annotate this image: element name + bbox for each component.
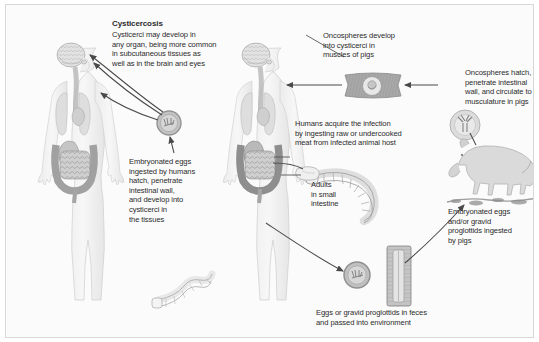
raw-meat-piece	[296, 167, 320, 180]
label-humans-acquire-infection: Humans acquire the infection by ingestin…	[295, 119, 443, 148]
label-cysticercosis-body: Cysticerci may develop in any organ, bei…	[112, 30, 262, 68]
label-eggs-gravid-proglottids-in-feces: Eggs or gravid proglottids in feces and …	[316, 308, 496, 327]
label-oncospheres-hatch: Oncospheres hatch, penetrate intestinal …	[465, 68, 534, 106]
pig-rooting-in-ground	[447, 139, 534, 206]
embryonated-egg-in-feces	[344, 262, 370, 288]
human-figure-with-organs-left	[38, 43, 124, 300]
label-adults-in-small-intestine: Adults in small intestine	[311, 180, 355, 209]
gravid-proglottid-strip	[387, 246, 411, 306]
arrow-label-to-egg	[170, 137, 174, 153]
oncosphere-with-hooklets	[450, 110, 480, 140]
title-cysticercosis: Cysticercosis	[112, 19, 163, 29]
diagram-artwork	[6, 5, 534, 338]
label-embryonated-eggs-ingested-by-humans: Embryonated eggs ingested by humans hatc…	[129, 157, 213, 224]
pig-muscle-with-cysticercus	[345, 73, 401, 98]
label-oncospheres-develop: Oncospheres develop into cysticerci in m…	[323, 31, 419, 60]
adult-tapeworm-secondary	[152, 274, 212, 308]
label-embryonated-eggs-ingested-by-pigs: Embryonated eggs and/or gravid proglotti…	[448, 207, 534, 245]
cysticercosis-lifecycle-figure: Cysticercosis Cysticerci may develop in …	[5, 4, 534, 338]
